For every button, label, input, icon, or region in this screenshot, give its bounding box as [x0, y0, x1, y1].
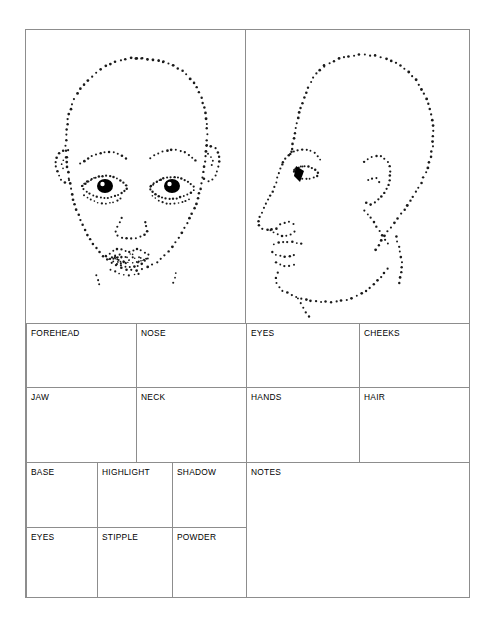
cell-label-forehead: FOREHEAD: [27, 324, 136, 338]
cell-label-notes: NOTES: [247, 463, 469, 477]
cell-jaw[interactable]: JAW: [26, 387, 136, 462]
worksheet-grid: FOREHEAD NOSE EYES CHEEKS JAW NECK HANDS…: [26, 323, 469, 597]
cell-label-neck: NECK: [137, 388, 246, 402]
cell-stipple[interactable]: STIPPLE: [97, 527, 172, 597]
cell-hands[interactable]: HANDS: [246, 387, 359, 462]
cell-notes[interactable]: NOTES: [246, 462, 469, 597]
cell-label-hair: HAIR: [360, 388, 469, 402]
cell-label-stipple: STIPPLE: [98, 528, 172, 542]
face-illustration-area: [26, 30, 469, 323]
cell-nose[interactable]: NOSE: [136, 323, 246, 387]
cell-forehead[interactable]: FOREHEAD: [26, 323, 136, 387]
cell-cheeks[interactable]: CHEEKS: [359, 323, 469, 387]
profile-face-drawing[interactable]: [246, 30, 469, 323]
stippled-frontal-face-icon: [26, 30, 245, 323]
cell-label-shadow: SHADOW: [173, 463, 246, 477]
cell-label-cheeks: CHEEKS: [360, 324, 469, 338]
cell-label-highlight: HIGHLIGHT: [98, 463, 172, 477]
stippled-profile-face-icon: [246, 30, 469, 323]
face-chart-worksheet: FOREHEAD NOSE EYES CHEEKS JAW NECK HANDS…: [25, 29, 470, 598]
cell-label-base: BASE: [27, 463, 97, 477]
cell-hair[interactable]: HAIR: [359, 387, 469, 462]
cell-label-eyes-lower: EYES: [27, 528, 97, 542]
cell-eyes-upper[interactable]: EYES: [246, 323, 359, 387]
cell-shadow[interactable]: SHADOW: [172, 462, 246, 527]
frontal-face-drawing[interactable]: [26, 30, 245, 323]
cell-highlight[interactable]: HIGHLIGHT: [97, 462, 172, 527]
cell-label-hands: HANDS: [247, 388, 359, 402]
cell-eyes-lower[interactable]: EYES: [26, 527, 97, 597]
cell-base[interactable]: BASE: [26, 462, 97, 527]
cell-label-powder: POWDER: [173, 528, 246, 542]
cell-neck[interactable]: NECK: [136, 387, 246, 462]
cell-label-nose: NOSE: [137, 324, 246, 338]
cell-label-jaw: JAW: [27, 388, 136, 402]
cell-powder[interactable]: POWDER: [172, 527, 246, 597]
cell-label-eyes-upper: EYES: [247, 324, 359, 338]
